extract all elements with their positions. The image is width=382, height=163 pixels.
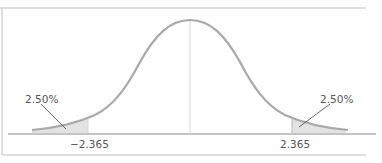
right-tail-leader-line [299, 104, 330, 127]
right-critical-value-label: 2.365 [280, 138, 310, 150]
left-tail-percent-label: 2.50% [25, 93, 58, 105]
left-critical-value-label: −2.365 [70, 138, 109, 150]
t-distribution-diagram [0, 0, 382, 163]
right-tail-percent-label: 2.50% [320, 93, 353, 105]
left-tail-leader-line [41, 104, 66, 129]
